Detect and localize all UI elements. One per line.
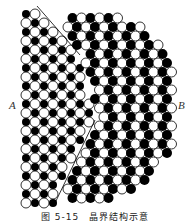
figure-caption: 图 5-15 晶界结构示意 — [0, 210, 190, 221]
grain-b-label: B — [178, 99, 185, 111]
grain-a-label: A — [9, 99, 16, 111]
grain-boundary-diagram — [0, 0, 190, 221]
